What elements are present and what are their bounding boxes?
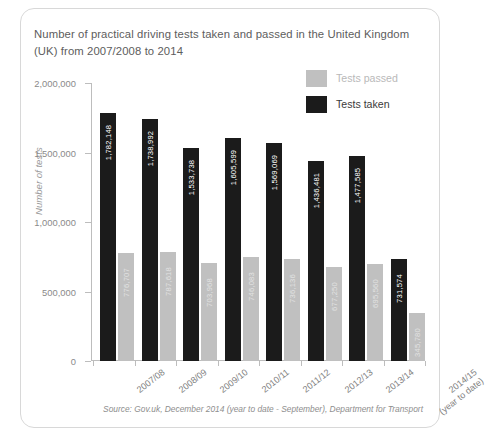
bar-taken[interactable]: 731,574 [391, 259, 407, 361]
x-axis-category-label: 2014/15(year to date) [430, 367, 486, 417]
y-axis-line [91, 83, 92, 361]
bar-group: 1,738,992787,618 [142, 83, 176, 361]
bar-passed[interactable]: 746,083 [243, 257, 259, 361]
bar-passed[interactable]: 677,250 [326, 267, 342, 361]
bar-value-label: 776,707 [122, 268, 131, 297]
bar-passed[interactable]: 787,618 [160, 252, 176, 361]
bar-value-label: 677,250 [329, 282, 338, 311]
y-axis-tick-label: 500,000 [42, 286, 76, 297]
bar-group: 1,782,148776,707 [100, 83, 134, 361]
y-axis-tick: 500,000 [85, 292, 91, 293]
bar-group: 1,436,481677,250 [308, 83, 342, 361]
page-title: Number of practical driving tests taken … [34, 26, 424, 60]
bar-taken[interactable]: 1,436,481 [308, 161, 324, 361]
x-axis-category-label: 2011/12 [301, 367, 333, 395]
source-note: Source: Gov.uk, December 2014 (year to d… [21, 404, 423, 414]
x-axis-tick [342, 361, 343, 366]
x-axis-tick [93, 361, 94, 366]
bar-taken[interactable]: 1,782,148 [100, 113, 116, 361]
bar-value-label: 703,968 [205, 278, 214, 307]
x-axis-tick [384, 361, 385, 366]
bar-passed[interactable]: 695,560 [367, 264, 383, 361]
x-axis-tick [301, 361, 302, 366]
bar-value-label: 787,618 [163, 267, 172, 296]
x-axis-tick [425, 361, 426, 366]
bar-value-label: 1,436,481 [311, 173, 320, 209]
bar-value-label: 1,569,069 [270, 155, 279, 191]
x-axis-tick [218, 361, 219, 366]
x-axis-tick [259, 361, 260, 366]
chart-card: Number of practical driving tests taken … [20, 8, 440, 428]
bar-taken[interactable]: 1,569,069 [266, 143, 282, 361]
x-axis-category-label: 2010/11 [259, 367, 291, 395]
x-axis-category-label: 2012/13 [342, 367, 374, 396]
bar-value-label: 1,533,738 [187, 160, 196, 196]
bar-taken[interactable]: 1,477,585 [349, 156, 365, 361]
bar-value-label: 1,782,148 [104, 125, 113, 161]
y-axis-tick-label: 2,000,000 [34, 78, 76, 89]
bar-group: 1,533,738703,968 [183, 83, 217, 361]
plot-area: Number of tests 0500,0001,000,0001,500,0… [91, 83, 421, 361]
bar-passed[interactable]: 736,136 [284, 259, 300, 361]
bar-group: 1,605,599746,083 [225, 83, 259, 361]
x-axis-category-label: 2009/10 [218, 367, 250, 396]
y-axis-tick-label: 1,000,000 [34, 217, 76, 228]
x-axis-category-label: 2008/09 [176, 367, 208, 396]
bar-group: 1,569,069736,136 [266, 83, 300, 361]
bar-taken[interactable]: 1,533,738 [183, 148, 199, 361]
bar-group: 1,477,585695,560 [349, 83, 383, 361]
bar-taken[interactable]: 1,605,599 [225, 138, 241, 361]
bar-passed[interactable]: 345,780 [409, 313, 425, 361]
bar-value-label: 1,477,585 [353, 167, 362, 203]
bar-passed[interactable]: 703,968 [201, 263, 217, 361]
bar-passed[interactable]: 776,707 [118, 253, 134, 361]
bar-group: 731,574345,780 [391, 83, 425, 361]
y-axis-tick: 0 [85, 361, 91, 362]
x-axis-category-label: 2007/08 [135, 367, 167, 396]
y-axis-tick-label: 0 [71, 356, 76, 367]
y-axis-tick-label: 1,500,000 [34, 147, 76, 158]
y-axis-tick: 1,000,000 [85, 222, 91, 223]
bar-taken[interactable]: 1,738,992 [142, 119, 158, 361]
bar-value-label: 1,738,992 [145, 131, 154, 167]
x-axis-category-label: 2013/14 [384, 367, 416, 396]
y-axis-tick: 2,000,000 [85, 83, 91, 84]
bar-value-label: 731,574 [394, 274, 403, 303]
x-axis-tick [176, 361, 177, 366]
bar-value-label: 1,605,599 [228, 150, 237, 186]
bar-value-label: 746,083 [246, 272, 255, 301]
x-axis-tick [135, 361, 136, 366]
bar-value-label: 345,780 [412, 328, 421, 357]
y-axis-tick: 1,500,000 [85, 153, 91, 154]
bar-value-label: 736,136 [288, 274, 297, 303]
bar-value-label: 695,560 [371, 279, 380, 308]
